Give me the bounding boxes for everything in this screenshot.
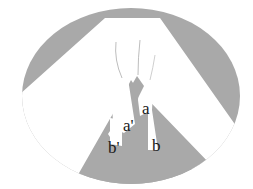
diagram: a a' b' b (0, 0, 253, 189)
label-a-prime: a' (123, 116, 134, 135)
label-b-prime: b' (108, 138, 120, 157)
label-b: b (152, 136, 161, 155)
label-a: a (142, 99, 150, 118)
